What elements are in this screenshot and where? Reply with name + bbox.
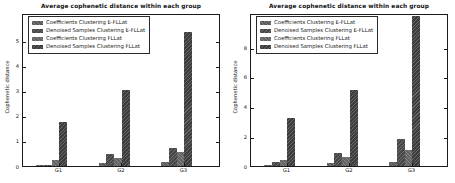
x-tick-label: G1 bbox=[276, 168, 296, 173]
x-tick-label: G3 bbox=[401, 168, 421, 173]
legend-label: Denoised Samples Clustering E-FLLat bbox=[46, 28, 145, 33]
y-tick-label: 8 bbox=[233, 46, 247, 51]
y-tick-mark bbox=[216, 117, 219, 118]
y-tick-mark bbox=[23, 92, 26, 93]
x-tick-label: G1 bbox=[48, 168, 68, 173]
y-tick-mark bbox=[23, 117, 26, 118]
legend-swatch bbox=[260, 21, 271, 26]
legend-label: Coefficients Clustering E-FLLat bbox=[274, 20, 355, 25]
legend-swatch bbox=[260, 45, 271, 50]
bar bbox=[272, 162, 280, 166]
y-tick-label: 4 bbox=[233, 105, 247, 110]
y-tick-mark bbox=[251, 138, 254, 139]
y-tick-mark bbox=[444, 108, 447, 109]
x-tick-label: G2 bbox=[339, 168, 359, 173]
legend-swatch bbox=[260, 37, 271, 42]
y-tick-mark bbox=[23, 42, 26, 43]
legend-item: Coefficients Clustering E-FLLat bbox=[32, 19, 145, 27]
bar bbox=[99, 163, 107, 166]
y-tick-mark bbox=[251, 166, 254, 167]
y-tick-mark bbox=[23, 142, 26, 143]
bar bbox=[287, 118, 295, 166]
y-tick-mark bbox=[251, 49, 254, 50]
y-tick-mark bbox=[216, 42, 219, 43]
y-tick-mark bbox=[444, 78, 447, 79]
legend-label: Coefficients Clustering E-FLLat bbox=[46, 20, 127, 25]
y-tick-mark bbox=[23, 67, 26, 68]
x-tick-mark bbox=[349, 163, 350, 166]
x-tick-mark bbox=[59, 163, 60, 166]
legend-label: Denoised Samples Clustering FLLat bbox=[274, 44, 368, 49]
legend-label: Coefficients Clustering FLLat bbox=[46, 36, 122, 41]
bar bbox=[44, 165, 52, 166]
bar bbox=[161, 162, 169, 167]
y-tick-mark bbox=[216, 142, 219, 143]
y-tick-mark bbox=[251, 78, 254, 79]
x-tick-label: G3 bbox=[173, 168, 193, 173]
y-tick-label: 3 bbox=[5, 89, 19, 94]
chart-right: Average cophenetic distance within each … bbox=[228, 0, 455, 183]
legend-item: Coefficients Clustering FLLat bbox=[260, 35, 373, 43]
legend-swatch bbox=[32, 21, 43, 26]
bar bbox=[327, 163, 335, 166]
x-tick-mark bbox=[287, 163, 288, 166]
bar bbox=[122, 90, 130, 167]
x-tick-mark bbox=[412, 163, 413, 166]
y-tick-label: 4 bbox=[5, 64, 19, 69]
bar bbox=[412, 16, 420, 166]
legend-label: Denoised Samples Clustering FLLat bbox=[46, 44, 140, 49]
bar bbox=[264, 165, 272, 166]
y-tick-mark bbox=[216, 67, 219, 68]
bar bbox=[106, 154, 114, 166]
y-tick-label: 0 bbox=[5, 165, 19, 170]
y-tick-mark bbox=[444, 166, 447, 167]
y-tick-label: 2 bbox=[5, 114, 19, 119]
legend-label: Coefficients Clustering FLLat bbox=[274, 36, 350, 41]
legend-swatch bbox=[32, 29, 43, 34]
y-tick-mark bbox=[216, 166, 219, 167]
legend-item: Denoised Samples Clustering FLLat bbox=[32, 43, 145, 51]
legend-label: Denoised Samples Clustering E-FLLat bbox=[274, 28, 373, 33]
y-tick-label: 6 bbox=[233, 75, 247, 80]
y-tick-mark bbox=[444, 49, 447, 50]
x-tick-label: G2 bbox=[111, 168, 131, 173]
bar bbox=[350, 90, 358, 167]
legend-item: Denoised Samples Clustering E-FLLat bbox=[260, 27, 373, 35]
figure-two-bar-charts: Average cophenetic distance within each … bbox=[0, 0, 455, 183]
legend-item: Coefficients Clustering E-FLLat bbox=[260, 19, 373, 27]
bar bbox=[184, 32, 192, 166]
y-tick-mark bbox=[23, 166, 26, 167]
y-tick-label: 2 bbox=[233, 135, 247, 140]
y-tick-mark bbox=[444, 138, 447, 139]
x-tick-mark bbox=[121, 163, 122, 166]
legend-item: Coefficients Clustering FLLat bbox=[32, 35, 145, 43]
legend-swatch bbox=[32, 45, 43, 50]
chart-left: Average cophenetic distance within each … bbox=[0, 0, 227, 183]
bar bbox=[169, 148, 177, 166]
chart-title: Average cophenetic distance within each … bbox=[250, 3, 448, 9]
chart-title: Average cophenetic distance within each … bbox=[22, 3, 220, 9]
legend-swatch bbox=[260, 29, 271, 34]
legend-item: Denoised Samples Clustering E-FLLat bbox=[32, 27, 145, 35]
legend: Coefficients Clustering E-FLLatDenoised … bbox=[28, 16, 150, 54]
y-tick-label: 5 bbox=[5, 39, 19, 44]
x-tick-mark bbox=[184, 163, 185, 166]
bar bbox=[389, 162, 397, 166]
y-tick-label: 1 bbox=[5, 139, 19, 144]
legend-item: Denoised Samples Clustering FLLat bbox=[260, 43, 373, 51]
y-tick-label: 0 bbox=[233, 165, 247, 170]
legend-swatch bbox=[32, 37, 43, 42]
legend: Coefficients Clustering E-FLLatDenoised … bbox=[256, 16, 378, 54]
bar bbox=[334, 153, 342, 166]
bar bbox=[36, 165, 44, 166]
bar bbox=[397, 139, 405, 166]
y-tick-mark bbox=[251, 108, 254, 109]
y-tick-mark bbox=[216, 92, 219, 93]
bar bbox=[59, 122, 67, 166]
